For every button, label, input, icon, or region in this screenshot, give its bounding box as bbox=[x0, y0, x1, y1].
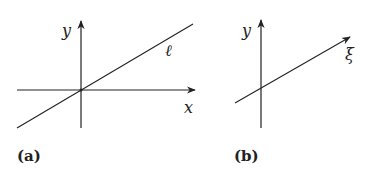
x-axis-label: x bbox=[184, 98, 193, 117]
line-ell bbox=[17, 24, 193, 128]
diagram-canvas: y x ℓ (a) y ξ (b) bbox=[0, 0, 368, 193]
xi-vector bbox=[235, 37, 350, 103]
caption-a: (a) bbox=[17, 147, 41, 165]
y-axis-label: y bbox=[61, 21, 72, 40]
caption-b: (b) bbox=[234, 147, 259, 165]
panel-b: y ξ (b) bbox=[234, 20, 355, 165]
vector-label: ξ bbox=[345, 45, 355, 64]
origin-dot bbox=[80, 89, 83, 92]
panel-a: y x ℓ (a) bbox=[17, 21, 195, 165]
y-axis-label: y bbox=[241, 21, 252, 40]
line-label: ℓ bbox=[165, 41, 172, 60]
